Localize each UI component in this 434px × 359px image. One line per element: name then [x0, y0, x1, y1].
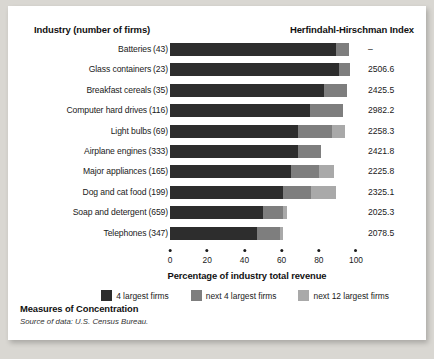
column-header-hhi: Herfindahl-Hirschman Index — [290, 24, 414, 35]
tick-label: 40 — [240, 255, 249, 265]
tick-dot-icon — [168, 249, 171, 252]
hhi-value: 2325.1 — [368, 187, 394, 197]
stacked-bar — [170, 227, 356, 240]
chart-figure: Industry (number of firms) Herfindahl-Hi… — [8, 6, 426, 340]
bar-segment-2 — [310, 104, 343, 117]
bar-segment-2 — [324, 84, 346, 97]
bar-segment-2 — [257, 227, 279, 240]
firm-count: (199) — [148, 187, 168, 197]
hhi-value: 2258.3 — [368, 126, 394, 136]
chart-row: Breakfast cereals(35)2425.5 — [8, 82, 426, 102]
chart-row: Batteries(43)– — [8, 41, 426, 61]
firm-count: (347) — [148, 228, 168, 238]
stacked-bar — [170, 165, 356, 178]
legend-label: next 12 largest firms — [313, 291, 388, 301]
chart-row: Airplane engines(333)2421.8 — [8, 143, 426, 163]
industry-name: Computer hard drives — [66, 105, 147, 115]
hhi-value: – — [368, 44, 373, 54]
tick-dot-icon — [280, 249, 283, 252]
stacked-bar — [170, 63, 356, 76]
bar-segment-1 — [170, 125, 298, 138]
industry-name: Major appliances — [83, 166, 146, 176]
x-tick: 100 — [349, 249, 363, 265]
row-label: Computer hard drives(116) — [66, 105, 168, 115]
legend-item: 4 largest firms — [101, 290, 169, 301]
tick-label: 60 — [277, 255, 286, 265]
row-label: Major appliances(165) — [83, 166, 168, 176]
row-label: Airplane engines(333) — [84, 146, 168, 156]
bar-segment-1 — [170, 145, 298, 158]
row-label: Dog and cat food(199) — [83, 187, 168, 197]
bar-segment-1 — [170, 227, 257, 240]
row-label: Light bulbs(69) — [111, 126, 168, 136]
row-label: Glass containers(23) — [89, 64, 168, 74]
x-tick: 0 — [168, 249, 173, 265]
bar-segment-2 — [283, 186, 311, 199]
bar-segment-2 — [298, 145, 320, 158]
row-label: Breakfast cereals(35) — [86, 85, 168, 95]
bar-segment-2 — [263, 206, 283, 219]
firm-count: (35) — [153, 85, 168, 95]
legend-item: next 12 largest firms — [298, 290, 388, 301]
chart-row: Telephones(347)2078.5 — [8, 225, 426, 245]
industry-name: Glass containers — [89, 64, 151, 74]
figure-source: Source of data: U.S. Census Bureau. — [20, 317, 148, 326]
legend-label: 4 largest firms — [116, 291, 169, 301]
firm-count: (69) — [153, 126, 168, 136]
industry-name: Breakfast cereals — [86, 85, 151, 95]
tick-label: 100 — [349, 255, 363, 265]
bar-segment-3 — [311, 186, 335, 199]
legend-label: next 4 largest firms — [206, 291, 277, 301]
firm-count: (333) — [148, 146, 168, 156]
hhi-value: 2421.8 — [368, 146, 394, 156]
column-header-industry: Industry (number of firms) — [34, 24, 150, 35]
industry-name: Light bulbs — [111, 126, 151, 136]
figure-title: Measures of Concentration — [20, 303, 148, 314]
x-tick: 60 — [277, 249, 286, 265]
industry-name: Batteries — [118, 44, 151, 54]
hhi-value: 2425.5 — [368, 85, 394, 95]
legend-swatch-icon — [298, 290, 309, 301]
industry-name: Soap and detergent — [73, 207, 147, 217]
tick-dot-icon — [354, 249, 357, 252]
chart-legend: 4 largest firmsnext 4 largest firmsnext … — [8, 290, 426, 301]
bar-segment-1 — [170, 186, 283, 199]
x-axis-title: Percentage of industry total revenue — [8, 270, 426, 281]
x-tick: 40 — [240, 249, 249, 265]
legend-item: next 4 largest firms — [191, 290, 277, 301]
tick-dot-icon — [317, 249, 320, 252]
chart-row: Dog and cat food(199)2325.1 — [8, 184, 426, 204]
hhi-value: 2078.5 — [368, 228, 394, 238]
industry-name: Dog and cat food — [83, 187, 147, 197]
firm-count: (165) — [148, 166, 168, 176]
bar-segment-2 — [336, 43, 349, 56]
tick-dot-icon — [206, 249, 209, 252]
legend-swatch-icon — [191, 290, 202, 301]
bar-segment-1 — [170, 43, 336, 56]
bar-segment-2 — [339, 63, 350, 76]
stacked-bar — [170, 145, 356, 158]
industry-name: Telephones — [103, 228, 146, 238]
bar-segment-1 — [170, 84, 324, 97]
bar-segment-1 — [170, 165, 291, 178]
firm-count: (116) — [149, 105, 168, 115]
bar-segment-3 — [280, 227, 284, 240]
figure-footer: Measures of Concentration Source of data… — [20, 303, 148, 326]
chart-row: Major appliances(165)2225.8 — [8, 163, 426, 183]
bar-segment-2 — [298, 125, 331, 138]
firm-count: (659) — [148, 207, 168, 217]
bar-segment-1 — [170, 104, 310, 117]
bar-segment-3 — [319, 165, 334, 178]
stacked-bar — [170, 104, 356, 117]
hhi-value: 2025.3 — [368, 207, 394, 217]
chart-row: Soap and detergent(659)2025.3 — [8, 204, 426, 224]
industry-name: Airplane engines — [84, 146, 146, 156]
x-tick: 20 — [203, 249, 212, 265]
chart-row: Computer hard drives(116)2982.2 — [8, 102, 426, 122]
row-label: Telephones(347) — [103, 228, 168, 238]
bar-segment-1 — [170, 63, 339, 76]
stacked-bar — [170, 84, 356, 97]
bar-segment-2 — [291, 165, 319, 178]
row-label: Soap and detergent(659) — [73, 207, 168, 217]
stacked-bar — [170, 186, 356, 199]
